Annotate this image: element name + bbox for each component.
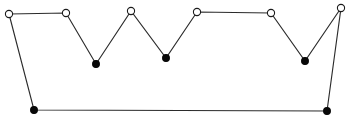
vertex-peak-2: peak-2 <box>62 9 69 16</box>
polygon-diagram: Crown-shaped polygon with marked vertice… <box>0 0 348 123</box>
vertex-upper-right-peak: upper-right-peak <box>337 4 344 11</box>
vertex-valley-2: valley-2 <box>163 55 170 62</box>
vertex-marker-group: upper-left-peakpeak-2valley-1peak-3valle… <box>5 4 344 114</box>
vertex-base-left: base-left <box>31 107 38 114</box>
vertex-valley-1: valley-1 <box>93 61 100 68</box>
vertex-base-right: base-right <box>324 108 331 115</box>
vertex-peak-4: peak-4 <box>193 8 200 15</box>
vertex-upper-left-peak: upper-left-peak <box>5 10 12 17</box>
vertex-valley-3: valley-3 <box>302 58 309 65</box>
polygon-outline <box>9 8 341 111</box>
polygon-diagram-canvas: Crown-shaped polygon with marked vertice… <box>0 0 348 123</box>
vertex-peak-5: peak-5 <box>267 9 274 16</box>
vertex-peak-3: peak-3 <box>127 7 134 14</box>
